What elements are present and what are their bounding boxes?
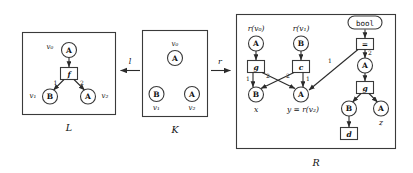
edge-label-L-1: 1 (54, 79, 58, 86)
edge-label-R-c-1: 1 (306, 75, 310, 82)
edge-label-R-eq-1: 1 (328, 57, 332, 64)
node-R-A-mid-label: A (361, 61, 368, 70)
opbox-R-d-label: d (346, 130, 352, 139)
annotation-R-y: y = r(v₂) (286, 105, 319, 114)
vertex-label-K-v2: v₂ (189, 104, 196, 112)
node-R-B1-label: B (298, 39, 304, 48)
edge-R-eq-to-Ay (309, 50, 358, 91)
vertex-label-L-v0: v₀ (47, 43, 54, 51)
node-K-A-right-label: A (188, 90, 195, 99)
edge-R-g2-to-Az (369, 94, 378, 103)
vertex-label-K-v1: v₁ (153, 104, 160, 112)
edge-label-R-g-2: 2 (266, 72, 270, 79)
frame-L-caption: L (65, 122, 72, 133)
node-R-A1-label: A (252, 39, 259, 48)
node-L-A-right-label: A (84, 92, 91, 101)
node-K-B-label: B (153, 90, 159, 99)
edge-label-R-g-1: 1 (246, 75, 250, 82)
node-R-B-x-label: B (253, 90, 259, 99)
node-R-A-z-label: A (377, 104, 384, 113)
frame-K-caption: K (170, 124, 179, 135)
morphism-label-r: r (218, 57, 223, 66)
annotation-R-rv0: r(v₀) (248, 24, 265, 33)
node-R-A-y-label: A (297, 90, 304, 99)
edge-label-L-2: 2 (80, 79, 84, 86)
figure-canvas: L A v₀ f 1 2 B v₁ A v₂ l K A v₀ B v₁ A v… (0, 0, 413, 173)
vertex-label-L-v1: v₁ (30, 92, 37, 100)
opbox-R-eq-label: = (362, 40, 368, 49)
edge-label-R-c-2: 2 (286, 72, 290, 79)
opbox-R-g2-label: g (362, 84, 367, 93)
typenode-R-bool-label: bool (356, 19, 374, 28)
opbox-R-g-label: g (253, 63, 258, 72)
graph-rewrite-diagram: L A v₀ f 1 2 B v₁ A v₂ l K A v₀ B v₁ A v… (0, 0, 413, 173)
vertex-label-K-v0: v₀ (172, 40, 179, 48)
morphism-label-l: l (129, 57, 132, 66)
frame-R-caption: R (311, 157, 319, 168)
vertex-label-L-v2: v₂ (102, 92, 109, 100)
node-K-A-top-label: A (171, 54, 178, 63)
edge-label-R-eq-2: 2 (368, 49, 372, 56)
node-R-B-low-label: B (346, 104, 352, 113)
annotation-R-rv1: r(v₁) (293, 24, 310, 33)
annotation-R-x: x (254, 105, 259, 114)
edge-R-g2-to-Blow (353, 94, 362, 103)
node-L-A-top-label: A (65, 46, 72, 55)
opbox-R-c-label: c (299, 63, 304, 72)
annotation-R-z: z (378, 118, 383, 127)
node-L-B-label: B (47, 92, 53, 101)
